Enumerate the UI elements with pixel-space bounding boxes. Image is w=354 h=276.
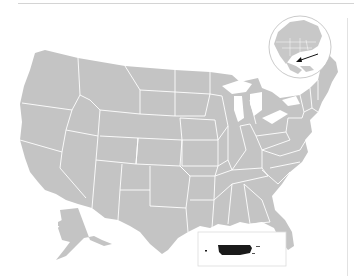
locator-globe — [269, 16, 331, 78]
puerto-rico-inset — [198, 232, 286, 266]
us-map — [0, 0, 354, 276]
puerto-rico-highlight — [218, 245, 252, 255]
